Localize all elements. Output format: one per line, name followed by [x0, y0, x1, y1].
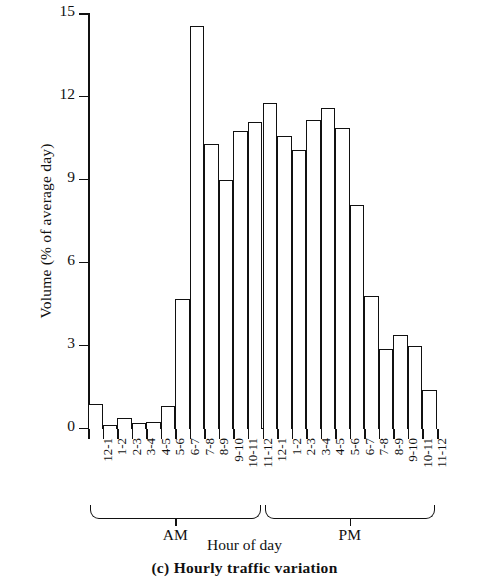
x-tick-label-text: 8-9: [217, 436, 230, 500]
x-tick-label-group: 12-11-22-33-44-55-66-77-88-99-1010-1111-…: [88, 440, 437, 502]
x-tick-label: 12-1: [101, 438, 114, 500]
x-tick-label: 7-8: [203, 438, 216, 500]
x-tick-label: 11-12: [261, 438, 274, 500]
x-tick-label-text: 12-1: [101, 436, 114, 500]
bar: [263, 103, 278, 429]
x-tick-label-text: 6-7: [188, 436, 201, 500]
hourly-traffic-variation-chart: Volume (% of average day) 03691215 12-11…: [0, 0, 489, 578]
x-tick-label: 2-3: [304, 438, 317, 500]
x-tick-label-text: 2-3: [130, 436, 143, 500]
x-tick-label-text: 1-2: [290, 436, 303, 500]
x-tick-label: 8-9: [217, 438, 230, 500]
x-tick-label-text: 4-5: [159, 436, 172, 500]
bar: [379, 349, 394, 429]
x-tick-label: 1-2: [115, 438, 128, 500]
group-brace-tip: [175, 519, 177, 526]
bar: [219, 180, 234, 429]
x-tick-label-text: 9-10: [232, 436, 245, 500]
bar: [393, 335, 408, 429]
y-tick-3: 3: [79, 345, 88, 347]
y-axis-title: Volume (% of average day): [37, 81, 55, 381]
y-tick-label: 0: [67, 418, 75, 434]
y-tick-0: 0: [79, 428, 88, 430]
x-tick-label: 11-12: [435, 438, 448, 500]
bar: [175, 299, 190, 429]
x-tick-label-text: 3-4: [144, 436, 157, 500]
x-tick-label: 3-4: [319, 438, 332, 500]
x-tick-label-text: 10-11: [246, 436, 259, 500]
group-brace-pm: [265, 505, 436, 519]
x-tick-label-text: 4-5: [333, 436, 346, 500]
x-tick-label-text: 7-8: [377, 436, 390, 500]
bar: [277, 136, 292, 429]
bar: [88, 404, 103, 429]
x-tick-label-text: 1-2: [115, 436, 128, 500]
x-tick-label-text: 10-11: [421, 436, 434, 500]
bar: [161, 406, 176, 429]
x-tick: [88, 429, 90, 439]
y-tick-label: 6: [67, 252, 75, 268]
x-tick-label-text: 8-9: [392, 436, 405, 500]
group-brace-am: [90, 505, 261, 519]
y-tick-6: 6: [79, 262, 88, 264]
bar: [117, 418, 132, 429]
group-brace-tip: [350, 519, 352, 526]
bar: [306, 120, 321, 429]
bar: [321, 108, 336, 429]
x-tick-label: 8-9: [392, 438, 405, 500]
x-tick-label-text: 11-12: [261, 436, 274, 500]
plot-area: 03691215: [88, 13, 437, 429]
bar: [248, 122, 263, 429]
x-tick-label: 10-11: [421, 438, 434, 500]
y-tick-label: 15: [60, 3, 76, 19]
x-tick-label: 6-7: [363, 438, 376, 500]
x-axis-title: Hour of day: [0, 536, 489, 554]
y-axis-line: [88, 13, 90, 429]
x-tick-label-text: 5-6: [173, 436, 186, 500]
bar: [233, 131, 248, 429]
bar: [350, 205, 365, 429]
y-tick-15: 15: [79, 13, 88, 15]
bar: [292, 150, 307, 429]
bar: [204, 144, 219, 429]
x-tick-label: 12-1: [275, 438, 288, 500]
y-tick-9: 9: [79, 179, 88, 181]
figure-caption: (c) Hourly traffic variation: [0, 559, 489, 577]
x-tick-label: 9-10: [232, 438, 245, 500]
y-tick-12: 12: [79, 96, 88, 98]
x-tick-label-text: 3-4: [319, 436, 332, 500]
x-tick-label: 9-10: [406, 438, 419, 500]
x-tick-label: 2-3: [130, 438, 143, 500]
x-tick-label-text: 12-1: [275, 436, 288, 500]
x-tick-label-text: 6-7: [363, 436, 376, 500]
x-tick-label-text: 11-12: [435, 436, 448, 500]
y-tick-label: 3: [67, 335, 75, 351]
bar: [335, 128, 350, 429]
x-tick-label: 10-11: [246, 438, 259, 500]
x-tick-label-text: 7-8: [203, 436, 216, 500]
bar: [408, 346, 423, 429]
y-tick-label: 12: [60, 86, 76, 102]
bar: [146, 422, 161, 429]
x-tick-label-text: 2-3: [304, 436, 317, 500]
x-tick-label: 3-4: [144, 438, 157, 500]
x-tick-label: 6-7: [188, 438, 201, 500]
x-tick-label: 7-8: [377, 438, 390, 500]
x-tick-label: 4-5: [159, 438, 172, 500]
bar: [364, 296, 379, 429]
x-tick-label: 1-2: [290, 438, 303, 500]
x-tick-label-text: 9-10: [406, 436, 419, 500]
bar: [422, 390, 437, 429]
y-tick-label: 9: [67, 169, 75, 185]
x-tick-label: 5-6: [348, 438, 361, 500]
x-tick-label: 4-5: [333, 438, 346, 500]
bar: [190, 26, 205, 429]
x-tick-label: 5-6: [173, 438, 186, 500]
x-tick-label-text: 5-6: [348, 436, 361, 500]
